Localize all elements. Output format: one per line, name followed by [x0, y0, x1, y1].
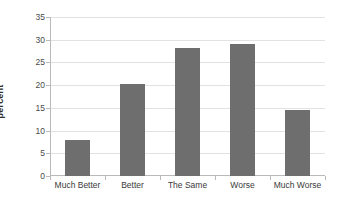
x-tick-mark: [215, 176, 216, 180]
y-tick-label: 10: [6, 126, 50, 136]
x-tick-label: Better: [105, 180, 160, 190]
bar-slot: [50, 17, 105, 176]
x-tick-label: The Same: [160, 180, 215, 190]
x-tick-label: Much Worse: [270, 180, 325, 190]
bar: [65, 140, 90, 176]
bar-chart: percent 05101520253035 Much BetterBetter…: [0, 0, 339, 203]
x-tick-label: Worse: [215, 180, 270, 190]
bar: [175, 48, 200, 176]
x-axis-labels: Much BetterBetterThe SameWorseMuch Worse: [50, 180, 325, 190]
x-tick-mark: [105, 176, 106, 180]
bar-slot: [160, 17, 215, 176]
y-tick-label: 35: [6, 12, 50, 22]
y-tick-label: 30: [6, 35, 50, 45]
x-tick-mark: [325, 176, 326, 180]
bar-slot: [270, 17, 325, 176]
x-tick-label: Much Better: [50, 180, 105, 190]
y-tick-label: 0: [6, 171, 50, 181]
bar-series: [50, 17, 325, 176]
bar-slot: [215, 17, 270, 176]
x-tick-mark: [50, 176, 51, 180]
y-tick-label: 5: [6, 148, 50, 158]
bar-slot: [105, 17, 160, 176]
y-tick-label: 15: [6, 103, 50, 113]
x-tick-mark: [270, 176, 271, 180]
y-tick-label: 25: [6, 57, 50, 67]
x-tick-mark: [160, 176, 161, 180]
bar: [230, 44, 255, 176]
bar: [120, 84, 145, 176]
y-tick-label: 20: [6, 80, 50, 90]
bar: [285, 110, 310, 176]
